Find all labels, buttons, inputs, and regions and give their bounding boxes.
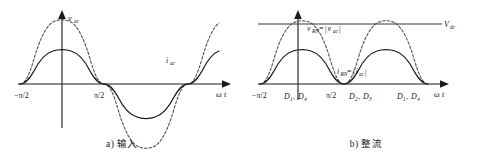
panel-rectified-plot: V dc v RN = | v ac | i RN = | i ac | <box>244 0 488 140</box>
svg-text:D: D <box>362 92 369 101</box>
label-vdc: V dc <box>444 20 456 30</box>
svg-text:|: | <box>353 68 355 77</box>
x-tick-half-pi-b: π/2 <box>326 91 336 100</box>
svg-text:v: v <box>328 24 332 33</box>
caption-rectified: b) 整流 <box>244 136 488 150</box>
svg-text:ac: ac <box>170 60 176 66</box>
svg-text:|: | <box>325 25 327 34</box>
svg-text:t: t <box>224 90 227 99</box>
svg-text:ac: ac <box>74 18 80 24</box>
x-tick-minus-half-pi-b: −π/2 <box>252 91 267 100</box>
y-axis-a <box>58 10 66 128</box>
y-axis-label-a: v ac <box>68 14 80 24</box>
svg-text:D: D <box>283 92 290 101</box>
svg-text:D: D <box>410 92 417 101</box>
svg-text:D: D <box>396 92 403 101</box>
svg-text:v: v <box>307 24 311 33</box>
svg-text:=: = <box>347 67 352 76</box>
svg-text:D: D <box>348 92 355 101</box>
panel-rectified: V dc v RN = | v ac | i RN = | i ac | <box>244 0 488 163</box>
diode-group-2: D 2 , D 3 <box>348 92 372 102</box>
panel-input-plot: v ac i ac −π/2 π/2 ω t <box>0 0 244 140</box>
svg-text:i: i <box>356 67 358 76</box>
svg-text:ω: ω <box>434 90 440 99</box>
svg-text:t: t <box>442 90 445 99</box>
svg-text:,: , <box>358 92 360 101</box>
svg-text:,: , <box>406 92 408 101</box>
svg-text:4: 4 <box>417 96 420 102</box>
diode-group-1: D 1 , D 4 <box>283 92 307 102</box>
diode-group-3: D 1 , D 4 <box>396 92 420 102</box>
figure-container: v ac i ac −π/2 π/2 ω t a) 输入 <box>0 0 488 163</box>
label-vrn-eq-abs-vac: v RN = | v ac | <box>307 24 341 34</box>
x-axis-label-b: ω t <box>434 90 445 99</box>
x-axis-a <box>18 80 231 88</box>
svg-text:i: i <box>166 56 168 65</box>
x-axis-label-a: ω t <box>216 90 227 99</box>
svg-text:ac: ac <box>333 28 339 34</box>
svg-text:ω: ω <box>216 90 222 99</box>
x-tick-half-pi-a: π/2 <box>94 91 104 100</box>
caption-input: a) 输入 <box>0 136 244 150</box>
x-axis-b <box>258 80 449 88</box>
svg-text:i: i <box>337 67 339 76</box>
svg-text:|: | <box>365 68 367 77</box>
svg-text:|: | <box>339 25 341 34</box>
panel-input: v ac i ac −π/2 π/2 ω t a) 输入 <box>0 0 244 163</box>
svg-text:3: 3 <box>368 96 372 102</box>
rectified-current-solid <box>260 50 428 85</box>
svg-text:dc: dc <box>450 24 456 30</box>
svg-text:ac: ac <box>359 71 365 77</box>
svg-text:,: , <box>293 92 295 101</box>
svg-text:4: 4 <box>304 96 307 102</box>
svg-text:=: = <box>319 24 324 33</box>
x-tick-minus-half-pi-a: −π/2 <box>14 91 29 100</box>
svg-text:v: v <box>68 14 72 23</box>
svg-text:D: D <box>297 92 304 101</box>
curve-label-iac: i ac <box>166 56 176 66</box>
